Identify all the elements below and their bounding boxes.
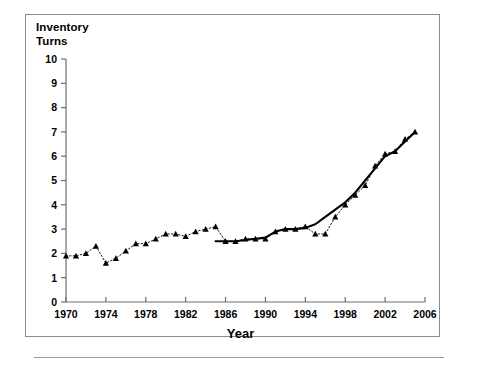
x-tick-label: 1998	[334, 308, 358, 320]
data-point-marker	[113, 255, 119, 261]
data-point-marker	[382, 151, 388, 157]
y-tick-label: 7	[51, 126, 57, 138]
data-point-marker	[212, 224, 218, 230]
data-point-marker	[103, 260, 109, 266]
series-solid-line	[216, 132, 415, 241]
y-tick-label: 4	[51, 199, 57, 211]
data-point-marker	[203, 226, 209, 232]
x-tick-label: 1994	[294, 308, 318, 320]
x-tick-label: 1982	[174, 308, 198, 320]
plot-canvas: 012345678910 197019741978198219861990199…	[0, 0, 481, 370]
y-tick-label: 6	[51, 150, 57, 162]
y-tick-label: 0	[51, 296, 57, 308]
y-tick-label: 2	[51, 247, 57, 259]
x-axis-title: Year	[0, 326, 481, 341]
x-tick-label: 1978	[134, 308, 158, 320]
x-tick-label: 1986	[214, 308, 238, 320]
data-point-marker	[143, 241, 149, 247]
series-markers-group	[63, 129, 418, 266]
x-axis: 1970197419781982198619901994199820022006	[54, 297, 437, 320]
y-tick-label: 3	[51, 223, 57, 235]
data-point-marker	[412, 129, 418, 135]
data-point-marker	[153, 236, 159, 242]
chart-figure: InventoryTurns 012345678910 197019741978…	[0, 0, 481, 370]
footer-rule	[34, 357, 444, 358]
y-tick-label: 1	[51, 272, 57, 284]
data-point-marker	[312, 231, 318, 237]
data-point-marker	[83, 250, 89, 256]
data-point-marker	[93, 243, 99, 249]
y-tick-label: 9	[51, 77, 57, 89]
x-tick-label: 2002	[373, 308, 397, 320]
y-tick-label: 5	[51, 174, 57, 186]
x-tick-label: 1990	[254, 308, 278, 320]
data-point-marker	[173, 231, 179, 237]
series-solid-group	[216, 132, 415, 241]
x-tick-label: 1974	[94, 308, 118, 320]
x-tick-label: 1970	[54, 308, 78, 320]
y-axis: 012345678910	[45, 53, 66, 308]
x-tick-label: 2006	[413, 308, 437, 320]
series-dotted-group	[66, 132, 415, 263]
series-dotted-line	[66, 132, 415, 263]
y-tick-label: 10	[45, 53, 57, 65]
data-point-marker	[193, 228, 199, 234]
data-point-marker	[123, 248, 129, 254]
y-tick-label: 8	[51, 101, 57, 113]
